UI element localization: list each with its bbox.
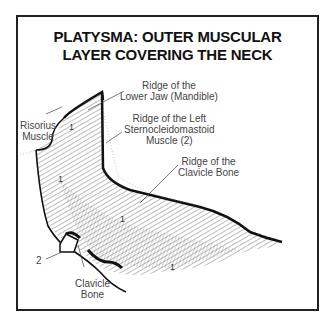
- region-marker-1: 1: [58, 174, 63, 184]
- label-mandible: Ridge of the Lower Jaw (Mandible): [120, 80, 218, 102]
- label-clavicle-ridge: Ridge of the Clavicle Bone: [178, 156, 239, 178]
- region-marker-1: 1: [69, 122, 74, 132]
- label-sternocleidomastoid: Ridge of the Left Sternocleidomastoid Mu…: [124, 113, 215, 146]
- region-marker-1: 1: [170, 262, 175, 272]
- marker-2: 2: [36, 255, 42, 266]
- label-clavicle-bone: Clavicle Bone: [75, 278, 110, 300]
- platysma-illustration: [0, 0, 332, 324]
- leader-marker-2: [46, 252, 62, 259]
- leader-risorius: [46, 107, 62, 114]
- label-risorius: Risorius Muscle: [20, 120, 56, 142]
- region-marker-1: 1: [120, 214, 125, 224]
